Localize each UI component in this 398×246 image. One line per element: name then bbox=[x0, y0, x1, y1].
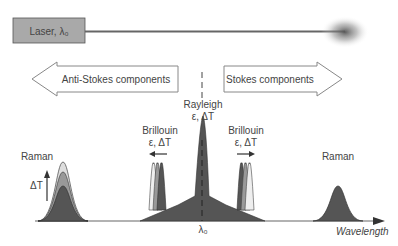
stokes-arrow: Stokes components bbox=[224, 62, 342, 96]
spectrum-diagram: Laser, λ₀ Anti-Stokes components Stokes … bbox=[0, 0, 398, 246]
brillouin-right-params: ε, ΔT bbox=[235, 137, 257, 148]
laser-label: Laser, λ₀ bbox=[29, 26, 68, 37]
laser-source: Laser, λ₀ bbox=[13, 18, 85, 43]
stokes-label: Stokes components bbox=[226, 74, 314, 85]
right-arrow-icon bbox=[249, 151, 255, 157]
brillouin-right-peaks bbox=[237, 163, 254, 210]
brillouin-right-label: Brillouin bbox=[228, 125, 264, 136]
rayleigh-params: ε, ΔT bbox=[192, 111, 214, 122]
anti-stokes-arrow: Anti-Stokes components bbox=[32, 62, 178, 96]
lambda-zero-label: λ₀ bbox=[198, 224, 207, 235]
rayleigh-label: Rayleigh bbox=[184, 99, 223, 110]
delta-t-label: ΔT bbox=[30, 180, 43, 191]
up-arrow-icon bbox=[44, 170, 50, 178]
brillouin-left-params: ε, ΔT bbox=[149, 137, 171, 148]
fiber-end-glow bbox=[321, 16, 369, 48]
brillouin-left-label: Brillouin bbox=[142, 125, 178, 136]
brillouin-left-peaks bbox=[149, 163, 166, 210]
raman-left-label: Raman bbox=[21, 151, 53, 162]
left-arrow-icon bbox=[149, 151, 155, 157]
wavelength-label: Wavelength bbox=[336, 226, 389, 237]
raman-left-peaks bbox=[38, 162, 88, 221]
raman-right-peak bbox=[313, 186, 363, 221]
anti-stokes-label: Anti-Stokes components bbox=[62, 74, 170, 85]
delta-t-indicator: ΔT bbox=[30, 170, 50, 201]
raman-right-label: Raman bbox=[322, 151, 354, 162]
axis-arrowhead bbox=[373, 217, 385, 225]
